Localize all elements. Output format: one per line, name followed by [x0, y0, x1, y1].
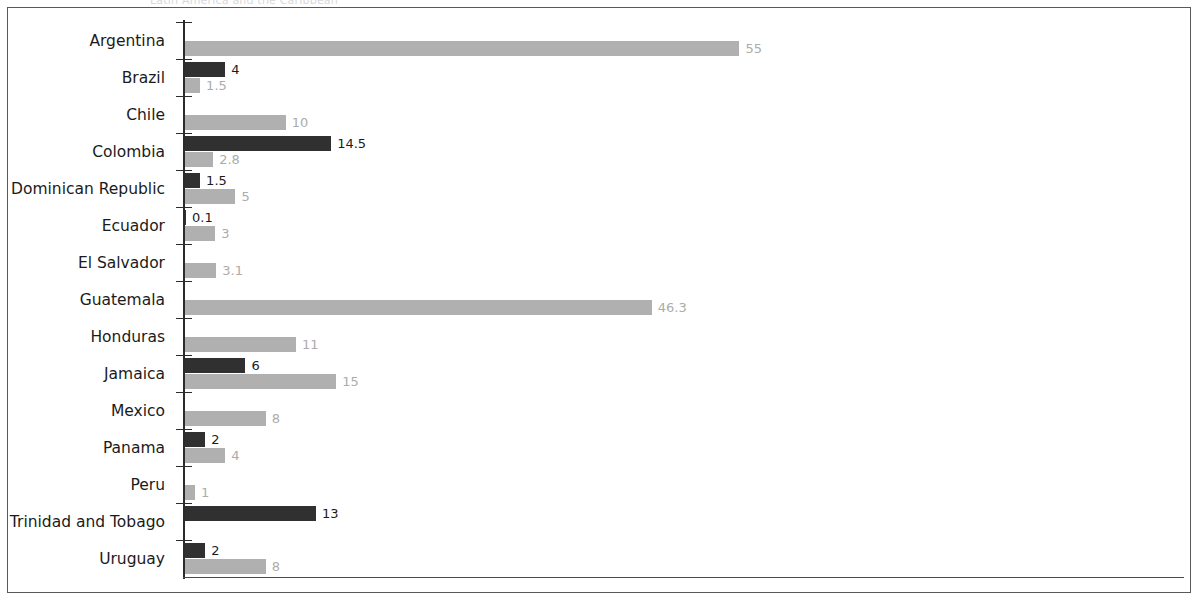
bar-light: [185, 448, 225, 463]
bar-light: [185, 300, 652, 315]
chart-row: El Salvador3.1: [184, 244, 1184, 281]
bar-light: [185, 152, 213, 167]
category-label: Chile: [126, 107, 165, 123]
bar-light: [185, 115, 286, 130]
bar-value-label-light: 55: [745, 41, 762, 56]
bar-value-label-light: 8: [272, 559, 280, 574]
chart-row: Argentina55: [184, 22, 1184, 59]
chart-row: Colombia14.52.8: [184, 133, 1184, 170]
bar-light: [185, 78, 200, 93]
bar-light: [185, 263, 216, 278]
bar-value-label-dark: 2: [211, 432, 219, 447]
bar-dark: [185, 173, 200, 188]
bar-value-label-light: 3: [221, 226, 229, 241]
axis-tick: [176, 281, 192, 282]
axis-tick: [176, 244, 192, 245]
category-label: Uruguay: [99, 551, 165, 567]
axis-tick: [176, 392, 192, 393]
category-label: Honduras: [90, 329, 165, 345]
category-label: Panama: [103, 440, 165, 456]
category-label: Jamaica: [104, 366, 165, 382]
plot-area: Argentina55Brazil41.5Chile10Colombia14.5…: [184, 22, 1184, 577]
chart-figure: Latin America and the Caribbean Argentin…: [0, 0, 1199, 600]
bar-dark: [185, 358, 245, 373]
chart-row: Peru1: [184, 466, 1184, 503]
category-label: Mexico: [111, 403, 165, 419]
bar-value-label-dark: 13: [322, 506, 339, 521]
chart-title-text: Latin America and the Caribbean: [150, 0, 450, 6]
bar-light: [185, 41, 739, 56]
chart-row: Chile10: [184, 96, 1184, 133]
category-label: Brazil: [122, 70, 165, 86]
category-label: Trinidad and Tobago: [10, 514, 165, 530]
bar-dark: [185, 210, 186, 225]
bar-dark: [185, 136, 331, 151]
bar-dark: [185, 543, 205, 558]
bar-value-label-light: 4: [231, 448, 239, 463]
axis-tick: [176, 466, 192, 467]
bar-light: [185, 337, 296, 352]
value-axis-baseline: [183, 577, 1184, 578]
bar-value-label-light: 1: [201, 485, 209, 500]
bar-value-label-light: 8: [272, 411, 280, 426]
axis-tick: [176, 22, 192, 23]
bar-value-label-dark: 14.5: [337, 136, 366, 151]
bar-dark: [185, 62, 225, 77]
axis-tick: [176, 429, 192, 430]
bar-light: [185, 189, 235, 204]
chart-row: Panama24: [184, 429, 1184, 466]
axis-tick: [176, 355, 192, 356]
chart-title-cropped: Latin America and the Caribbean: [150, 0, 450, 7]
chart-row: Guatemala46.3: [184, 281, 1184, 318]
axis-tick: [176, 170, 192, 171]
chart-row: Honduras11: [184, 318, 1184, 355]
axis-tick: [176, 96, 192, 97]
bar-value-label-light: 15: [342, 374, 359, 389]
bar-light: [185, 559, 266, 574]
axis-tick: [176, 59, 192, 60]
bar-value-label-light: 5: [241, 189, 249, 204]
chart-row: Ecuador0.13: [184, 207, 1184, 244]
category-label: Ecuador: [102, 218, 165, 234]
category-label: Guatemala: [80, 292, 165, 308]
bar-value-label-dark: 6: [251, 358, 259, 373]
category-label: Peru: [130, 477, 165, 493]
chart-row: Trinidad and Tobago13: [184, 503, 1184, 540]
axis-tick: [176, 540, 192, 541]
axis-tick: [176, 503, 192, 504]
category-label: Colombia: [92, 144, 165, 160]
bar-value-label-dark: 1.5: [206, 173, 227, 188]
bar-value-label-dark: 0.1: [192, 210, 213, 225]
bar-value-label-light: 3.1: [222, 263, 243, 278]
bar-value-label-light: 10: [292, 115, 309, 130]
chart-row: Mexico8: [184, 392, 1184, 429]
bar-value-label-light: 46.3: [658, 300, 687, 315]
bar-light: [185, 374, 336, 389]
bar-value-label-dark: 4: [231, 62, 239, 77]
chart-row: Brazil41.5: [184, 59, 1184, 96]
chart-row: Uruguay28: [184, 540, 1184, 577]
bar-value-label-light: 11: [302, 337, 319, 352]
axis-tick: [176, 207, 192, 208]
category-label: El Salvador: [78, 255, 165, 271]
bar-dark: [185, 506, 316, 521]
bar-light: [185, 485, 195, 500]
category-label: Argentina: [89, 33, 165, 49]
category-label: Dominican Republic: [11, 181, 165, 197]
axis-tick: [176, 318, 192, 319]
bar-dark: [185, 432, 205, 447]
chart-row: Dominican Republic1.55: [184, 170, 1184, 207]
bar-value-label-light: 1.5: [206, 78, 227, 93]
bar-value-label-light: 2.8: [219, 152, 240, 167]
bar-value-label-dark: 2: [211, 543, 219, 558]
bar-light: [185, 226, 215, 241]
chart-row: Jamaica615: [184, 355, 1184, 392]
axis-tick: [176, 133, 192, 134]
bar-light: [185, 411, 266, 426]
